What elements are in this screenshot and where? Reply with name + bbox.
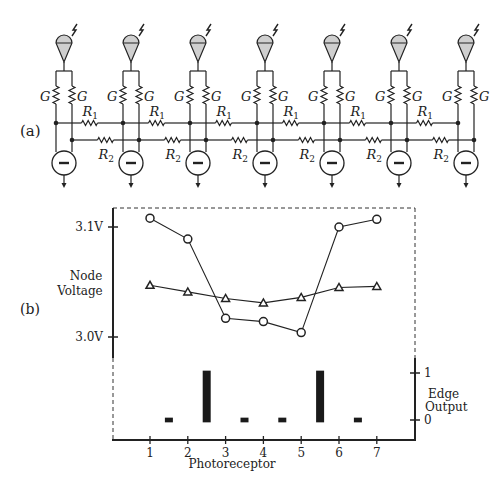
chart-panel: 1234567 3.1V 3.0V Node Voltage (b) 1 0 E… — [20, 208, 468, 471]
conductance-label: G — [308, 89, 318, 104]
figure: GGR1R2GGR1R2GGR1R2GGR1R2GGR1R2GGR1R2GG (… — [0, 0, 497, 488]
conductance-label: G — [345, 89, 355, 104]
panel-a-label: (a) — [20, 122, 41, 140]
light-bolt-icon — [273, 24, 278, 36]
triangle-marker — [373, 282, 381, 289]
light-bolt-icon — [407, 24, 412, 36]
voltage-series — [146, 214, 381, 336]
circuit-cell-5: GG — [308, 24, 355, 188]
circuit-cell-4: GG — [241, 24, 288, 188]
triangle-marker — [297, 293, 305, 300]
conductance-label: G — [375, 89, 385, 104]
x-tick-label: 1 — [146, 446, 154, 460]
conductance-label: G — [412, 89, 422, 104]
circle-series-line — [150, 218, 377, 332]
r1-label: R1 — [350, 104, 367, 121]
r2-label: R2 — [232, 147, 249, 164]
photoreceptor-icon — [324, 35, 340, 62]
current-source-icon — [320, 151, 344, 188]
r1-label: R1 — [216, 104, 233, 121]
edge-output-bar — [165, 418, 173, 423]
photoreceptor-icon — [458, 35, 474, 62]
conductance-label: G — [77, 89, 87, 104]
triangle-marker — [335, 284, 343, 291]
conductance-label: G — [144, 89, 154, 104]
conductance-label: G — [211, 89, 221, 104]
node-dot — [456, 121, 461, 126]
current-source-icon — [52, 151, 76, 188]
y2-axis-title-line2: Output — [425, 400, 468, 414]
x-tick-label: 7 — [373, 446, 381, 460]
circuit-cell-6: GG — [375, 24, 422, 188]
conductance-label: G — [479, 89, 489, 104]
panel-b-label: (b) — [20, 301, 40, 317]
triangle-marker — [222, 295, 230, 302]
r2-label: R2 — [299, 147, 316, 164]
y-axis-title-line2: Voltage — [56, 284, 102, 298]
edge-output-bar — [241, 418, 249, 423]
x-tick-label: 6 — [335, 446, 343, 460]
y2-tick-label-0: 0 — [424, 413, 432, 427]
conductance-label: G — [40, 89, 50, 104]
circuit-diagram: GGR1R2GGR1R2GGR1R2GGR1R2GGR1R2GGR1R2GG — [40, 24, 489, 188]
photoreceptor-icon — [56, 35, 72, 62]
current-source-icon — [119, 151, 143, 188]
triangle-marker — [146, 281, 154, 288]
circle-marker — [184, 235, 192, 243]
conductance-label: G — [107, 89, 117, 104]
y-tick-label-3.0v: 3.0V — [75, 330, 103, 344]
r2-label: R2 — [366, 147, 383, 164]
photoreceptor-icon — [190, 35, 206, 62]
current-source-icon — [387, 151, 411, 188]
conductance-label: G — [241, 89, 251, 104]
circuit-cell-3: GG — [174, 24, 221, 188]
triangle-marker — [259, 299, 267, 306]
photoreceptor-icon — [391, 35, 407, 62]
current-source-icon — [454, 151, 478, 188]
y-axis-title-line1: Node — [70, 269, 103, 283]
r1-label: R1 — [417, 104, 434, 121]
circle-marker — [335, 223, 343, 231]
light-bolt-icon — [206, 24, 211, 36]
conductance-label: G — [174, 89, 184, 104]
edge-output-bar — [354, 418, 362, 423]
node-dot — [472, 138, 477, 143]
conductance-label: G — [442, 89, 452, 104]
light-bolt-icon — [72, 24, 77, 36]
r2-label: R2 — [165, 147, 182, 164]
edge-output-bars — [165, 371, 362, 423]
circle-marker — [373, 215, 381, 223]
r1-label: R1 — [149, 104, 166, 121]
circle-marker — [259, 318, 267, 326]
circuit-cell-2: GG — [107, 24, 154, 188]
edge-output-bar — [203, 371, 211, 423]
conductance-label: G — [278, 89, 288, 104]
photoreceptor-icon — [123, 35, 139, 62]
edge-output-bar — [316, 371, 324, 423]
r1-label: R1 — [283, 104, 300, 121]
circle-marker — [222, 314, 230, 322]
light-bolt-icon — [139, 24, 144, 36]
circle-marker — [297, 329, 305, 337]
y2-tick-label-1: 1 — [424, 366, 432, 380]
circuit-cell-7: GG — [442, 24, 489, 188]
r2-label: R2 — [433, 147, 450, 164]
y2-axis-title-line1: Edge — [428, 387, 459, 401]
circle-marker — [146, 214, 154, 222]
r1-label: R1 — [82, 104, 99, 121]
light-bolt-icon — [340, 24, 345, 36]
light-bolt-icon — [474, 24, 479, 36]
current-source-icon — [186, 151, 210, 188]
edge-output-bar — [278, 418, 286, 423]
x-tick-label: 5 — [297, 446, 305, 460]
photoreceptor-icon — [257, 35, 273, 62]
r2-label: R2 — [98, 147, 115, 164]
triangle-marker — [184, 288, 192, 295]
y-tick-label-3.1v: 3.1V — [75, 220, 103, 234]
x-axis-title: Photoreceptor — [188, 457, 275, 471]
current-source-icon — [253, 151, 277, 188]
circuit-cell-1: GG — [40, 24, 87, 188]
